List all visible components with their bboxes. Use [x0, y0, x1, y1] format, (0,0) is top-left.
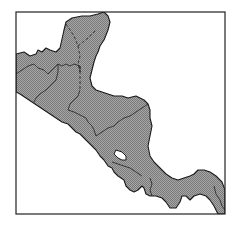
landmass — [16, 12, 225, 214]
map-content — [16, 12, 225, 214]
central-america-map — [0, 0, 238, 231]
